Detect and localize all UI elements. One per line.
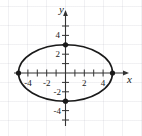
y-tick-label-4: 4 <box>56 31 61 40</box>
x-tick-label-minus2: -2 <box>43 79 51 88</box>
point-right-vertex <box>110 70 115 75</box>
y-tick-label-2: 2 <box>56 50 61 59</box>
y-axis-label: y <box>59 4 64 15</box>
ellipse-graph-figure: x y -4 -2 2 4 4 2 -2 -4 <box>0 0 142 136</box>
x-tick-label-4: 4 <box>101 79 106 88</box>
y-axis <box>63 10 68 126</box>
x-axis-label: x <box>127 74 132 85</box>
y-tick-label-minus2: -2 <box>54 87 62 96</box>
x-tick-label-minus4: -4 <box>24 79 32 88</box>
point-top-covertex <box>63 42 68 47</box>
x-tick-label-2: 2 <box>82 79 87 88</box>
point-bottom-covertex <box>63 99 68 104</box>
coordinate-plane <box>0 0 142 136</box>
y-tick-label-minus4: -4 <box>54 106 62 115</box>
point-left-vertex <box>16 70 21 75</box>
